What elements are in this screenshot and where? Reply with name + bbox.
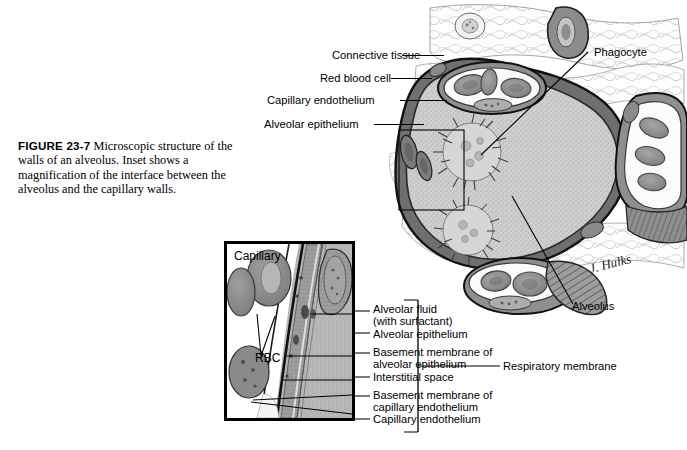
label-capillary-endothelium: Capillary endothelium [267,94,375,107]
membrane-label-2-line1: Basement membrane of [373,346,492,358]
label-connective-tissue: Connective tissue [332,49,420,62]
inset-label-rbc: RBC [255,351,280,365]
label-red-blood-cell: Red blood cell [320,72,391,85]
inset-label-capillary: Capillary [234,249,281,263]
membrane-label-4-line2: capillary endothelium [373,401,492,413]
inset-panel: Capillary RBC [224,241,355,421]
membrane-label-5-line1: Capillary endothelium [373,413,481,425]
membrane-label-5: Capillary endothelium [373,413,481,425]
label-alveolus: Alveolus [572,300,614,313]
membrane-label-0-line2: (with surfactant) [373,315,453,327]
inset-leader-lines [355,311,370,419]
membrane-label-1-line1: Alveolar epithelium [373,328,468,340]
membrane-label-3-line1: Interstitial space [373,371,454,383]
label-respiratory-membrane: Respiratory membrane [503,360,617,373]
membrane-label-0-line1: Alveolar fluid [373,303,453,315]
membrane-label-4-line1: Basement membrane of [373,389,492,401]
figure-caption: FIGURE 23-7 Microscopic structure of the… [18,139,240,197]
figure-page: Capillary RBC FIGURE 23-7 Microscopic st… [0,0,687,450]
membrane-label-1: Alveolar epithelium [373,328,468,340]
capillary-right [616,93,687,243]
label-phagocyte: Phagocyte [594,46,647,59]
label-alveolar-epithelium: Alveolar epithelium [264,118,359,131]
capillary-top [438,62,546,114]
figure-number: FIGURE 23-7 [18,139,90,152]
inset-art [227,244,352,418]
membrane-label-4: Basement membrane of capillary endotheli… [373,389,492,414]
membrane-label-2-line2: alveolar epithelium [373,358,492,370]
membrane-label-3: Interstitial space [373,371,454,383]
membrane-label-0: Alveolar fluid (with surfactant) [373,303,453,328]
membrane-label-2: Basement membrane of alveolar epithelium [373,346,492,371]
